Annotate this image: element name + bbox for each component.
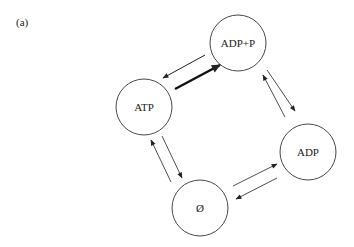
- node-atp-label: ATP: [134, 101, 154, 113]
- node-empty: Ø: [172, 180, 228, 236]
- node-atp: ATP: [116, 79, 172, 135]
- node-adp: ADP: [280, 124, 336, 180]
- arrow-empty-to-adp: [233, 164, 277, 186]
- state-cycle-diagram: ADP+P ATP ADP Ø: [0, 0, 354, 247]
- arrow-atp-to-adp-p: [175, 65, 220, 89]
- node-adp-p-label: ADP+P: [221, 37, 255, 49]
- node-empty-label: Ø: [196, 202, 204, 214]
- arrow-empty-to-atp: [151, 140, 171, 182]
- arrow-adp-p-to-atp: [163, 55, 205, 78]
- node-adp-p: ADP+P: [210, 15, 266, 71]
- arrow-atp-to-empty: [162, 136, 182, 178]
- arrow-adp-to-adp-p: [263, 75, 285, 117]
- node-adp-label: ADP: [297, 146, 319, 158]
